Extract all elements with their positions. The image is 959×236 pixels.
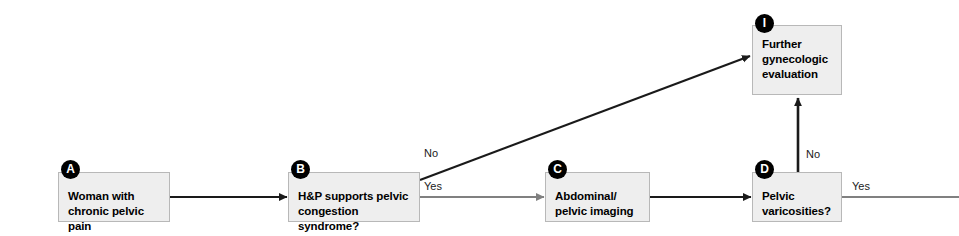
edge-label-d-yes: Yes: [852, 180, 870, 192]
node-c-badge: C: [548, 160, 567, 179]
node-a-woman-with-chronic-pelvic-pain[interactable]: Woman with chronic pelvic pain: [58, 172, 170, 222]
edge-label-b-yes: Yes: [424, 180, 442, 192]
node-i-badge: I: [755, 14, 774, 33]
node-d-badge: D: [755, 160, 774, 179]
edge-label-d-no: No: [806, 148, 820, 160]
node-i-further-gynecologic-evaluation[interactable]: Further gynecologic evaluation: [752, 25, 842, 95]
node-d-label: Pelvic varicosities?: [762, 189, 837, 219]
flowchart-canvas: Woman with chronic pelvic pain A H&P sup…: [0, 0, 959, 236]
node-c-label: Abdominal/ pelvic imaging: [555, 189, 645, 219]
node-a-badge: A: [61, 160, 80, 179]
node-i-label: Further gynecologic evaluation: [762, 37, 837, 83]
node-b-hp-supports-pelvic-congestion-syndrome[interactable]: H&P supports pelvic congestion syndrome?: [288, 172, 420, 222]
node-c-abdominal-pelvic-imaging[interactable]: Abdominal/ pelvic imaging: [545, 172, 650, 222]
node-b-badge: B: [291, 160, 310, 179]
node-d-pelvic-varicosities[interactable]: Pelvic varicosities?: [752, 172, 842, 222]
edge-b-to-i-no: [420, 56, 750, 180]
edge-label-b-no: No: [424, 147, 438, 159]
node-a-label: Woman with chronic pelvic pain: [68, 189, 165, 235]
node-b-label: H&P supports pelvic congestion syndrome?: [298, 189, 415, 235]
